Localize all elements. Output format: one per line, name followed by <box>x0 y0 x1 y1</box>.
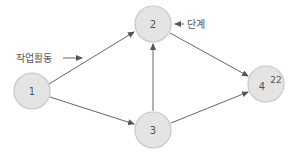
node-4-label: 4 <box>259 81 265 92</box>
node-2: 2 <box>135 6 171 42</box>
node-4: 4 22 <box>248 66 284 102</box>
stage-annotation-label: 단계 <box>187 19 205 30</box>
node-4-superscript: 22 <box>270 75 281 85</box>
node-2-label: 2 <box>150 19 156 30</box>
activity-annotation-label: 작업활동 <box>16 52 52 64</box>
network-diagram: 1 2 3 4 22 작업활동 단계 <box>0 0 306 157</box>
edge-1-to-2 <box>49 32 134 84</box>
edge-3-to-4 <box>171 92 248 123</box>
node-1: 1 <box>14 73 50 109</box>
node-1-label: 1 <box>29 86 35 97</box>
node-3-label: 3 <box>150 125 156 136</box>
edge-1-to-3 <box>50 97 134 124</box>
node-3: 3 <box>135 112 171 148</box>
edge-2-to-4 <box>170 33 248 76</box>
